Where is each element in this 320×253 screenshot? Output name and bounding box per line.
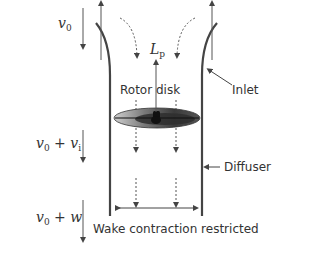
wake-label: Wake contraction restricted	[93, 223, 259, 235]
v0-plus-vi-label: v0 + vi	[36, 136, 81, 153]
rotor-disk-label: Rotor disk	[120, 84, 180, 96]
left-duct-wall	[96, 23, 110, 216]
inlet-label: Inlet	[232, 84, 259, 96]
right-duct-wall	[202, 23, 217, 216]
inlet-pointer-arrow	[209, 70, 232, 85]
right-inflow-dashed-arrow	[177, 18, 195, 56]
rotor-disk-icon	[114, 108, 200, 128]
lift-label: Lp	[150, 42, 165, 59]
diffuser-label: Diffuser	[224, 161, 271, 173]
v0-label: v0	[58, 16, 72, 33]
left-inflow-dashed-arrow	[120, 18, 137, 56]
v0-plus-w-label: v0 + w	[36, 210, 82, 227]
